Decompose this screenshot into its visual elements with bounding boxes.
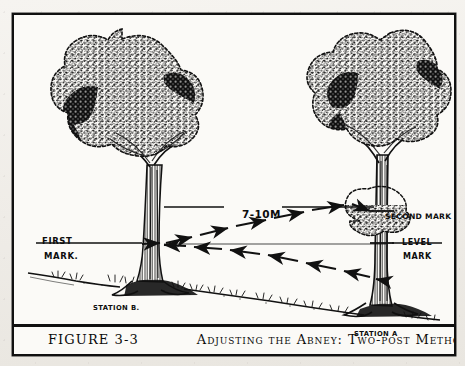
label-level-mark-line1: LEVEL	[402, 239, 432, 247]
label-second-mark: SECOND MARK	[385, 213, 451, 221]
caption-number: FIGURE 3-3	[48, 333, 139, 346]
label-station-b: STATION B.	[93, 305, 140, 312]
label-first-mark-line2: MARK.	[44, 252, 78, 261]
figure-caption: FIGURE 3-3 Adjusting the Abney: Two-post…	[14, 327, 454, 352]
label-distance: 7-10M	[242, 209, 281, 220]
figure-frame: FIRST MARK. SECOND MARK LEVEL MARK 7-10M…	[12, 13, 456, 356]
figure-illustration	[14, 15, 454, 354]
figure-page: FIRST MARK. SECOND MARK LEVEL MARK 7-10M…	[0, 0, 465, 366]
label-first-mark-line1: FIRST	[42, 237, 72, 246]
label-level-mark-line2: MARK	[403, 253, 432, 261]
figure-frame-inner: FIRST MARK. SECOND MARK LEVEL MARK 7-10M…	[14, 15, 454, 354]
caption-title: Adjusting the Abney: Two-post Method	[197, 333, 454, 346]
